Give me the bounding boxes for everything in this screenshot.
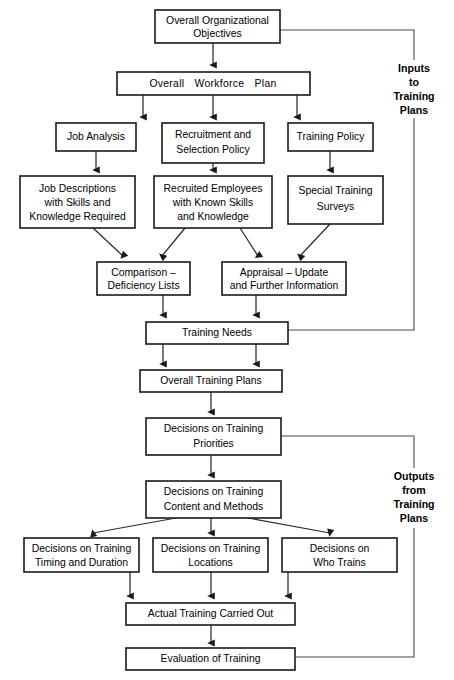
annotation-line: Plans <box>400 512 428 524</box>
node-label: Deficiency Lists <box>107 280 179 291</box>
annotation-line: Training <box>393 90 434 102</box>
node-label: Overall Training Plans <box>160 375 262 386</box>
node-label: Evaluation of Training <box>161 653 261 664</box>
node-label: Special Training <box>299 185 373 196</box>
node-label: Recruitment and <box>175 129 251 140</box>
node-label: Recruited Employees <box>164 183 263 194</box>
node-label: with Skills and <box>44 197 111 208</box>
node-training-needs[interactable]: Training Needs <box>146 322 288 344</box>
node-label: and Knowledge <box>177 211 249 222</box>
edge-content-to-whotrains <box>248 518 330 533</box>
node-label: Who Trains <box>313 557 366 568</box>
edge-jobdescriptions-to-comparison <box>93 228 123 256</box>
node-label: Knowledge Required <box>29 211 126 222</box>
node-label: Surveys <box>317 201 355 212</box>
node-label: Selection Policy <box>176 144 250 155</box>
edge-content-to-timing <box>93 518 176 533</box>
node-training-priorities[interactable]: Decisions on Training Priorities <box>146 418 281 455</box>
node-job-analysis[interactable]: Job Analysis <box>56 123 136 151</box>
node-overall-objectives[interactable]: Overall Organizational Objectives <box>155 10 280 43</box>
node-label: and Further Information <box>230 280 339 291</box>
node-label: Training Policy <box>297 131 366 142</box>
node-timing-and-duration[interactable]: Decisions on Training Timing and Duratio… <box>24 538 139 572</box>
annotation-line: Plans <box>400 104 428 116</box>
node-appraisal-update[interactable]: Appraisal – Update and Further Informati… <box>222 262 346 295</box>
node-label: Locations <box>188 557 232 568</box>
flowchart-svg: Overall Organizational Objectives Overal… <box>0 0 454 680</box>
node-label: Decisions on Training <box>164 423 264 434</box>
node-label: Actual Training Carried Out <box>148 608 273 619</box>
node-label: with Known Skills <box>172 197 253 208</box>
node-evaluation-of-training[interactable]: Evaluation of Training <box>126 648 295 670</box>
annotation-line: from <box>402 484 426 496</box>
node-label: Objectives <box>193 28 242 39</box>
node-who-trains[interactable]: Decisions on Who Trains <box>282 538 397 572</box>
node-job-descriptions[interactable]: Job Descriptions with Skills and Knowled… <box>20 176 135 228</box>
node-label: Decisions on <box>310 543 370 554</box>
edge-surveys-to-appraisal <box>300 224 330 256</box>
node-actual-training[interactable]: Actual Training Carried Out <box>126 603 295 625</box>
node-overall-training-plans[interactable]: Overall Training Plans <box>140 370 282 392</box>
annotation-line: Training <box>393 498 434 510</box>
node-special-training-surveys[interactable]: Special Training Surveys <box>288 176 383 224</box>
node-recruitment-policy[interactable]: Recruitment and Selection Policy <box>162 123 264 163</box>
node-label: Appraisal – Update <box>240 267 329 278</box>
node-training-policy[interactable]: Training Policy <box>288 123 373 151</box>
edge-recruited-to-appraisal <box>240 228 258 256</box>
node-training-locations[interactable]: Decisions on Training Locations <box>153 538 268 572</box>
annotation-line: Outputs <box>394 470 435 482</box>
node-label: Job Descriptions <box>39 183 116 194</box>
node-label: Decisions on Training <box>161 543 261 554</box>
node-label: Overall Organizational <box>166 15 269 26</box>
node-label: Overall Workforce Plan <box>149 78 276 89</box>
node-label: Job Analysis <box>67 131 125 142</box>
flowchart-canvas: Overall Organizational Objectives Overal… <box>0 0 454 680</box>
node-label: Decisions on Training <box>32 543 132 554</box>
node-label: Content and Methods <box>164 501 263 512</box>
node-content-and-methods[interactable]: Decisions on Training Content and Method… <box>146 481 281 518</box>
node-label: Timing and Duration <box>35 557 128 568</box>
node-label: Priorities <box>193 438 233 449</box>
node-comparison-deficiency[interactable]: Comparison – Deficiency Lists <box>97 262 190 295</box>
node-label: Decisions on Training <box>164 486 264 497</box>
node-workforce-plan[interactable]: Overall Workforce Plan <box>117 72 310 95</box>
annotation-line: Inputs <box>398 62 430 74</box>
annotation-line: to <box>409 76 420 88</box>
node-label: Training Needs <box>182 327 252 338</box>
node-label: Comparison – <box>111 267 176 278</box>
node-recruited-employees[interactable]: Recruited Employees with Known Skills an… <box>154 176 272 228</box>
edge-recruited-to-comparison <box>162 228 185 256</box>
